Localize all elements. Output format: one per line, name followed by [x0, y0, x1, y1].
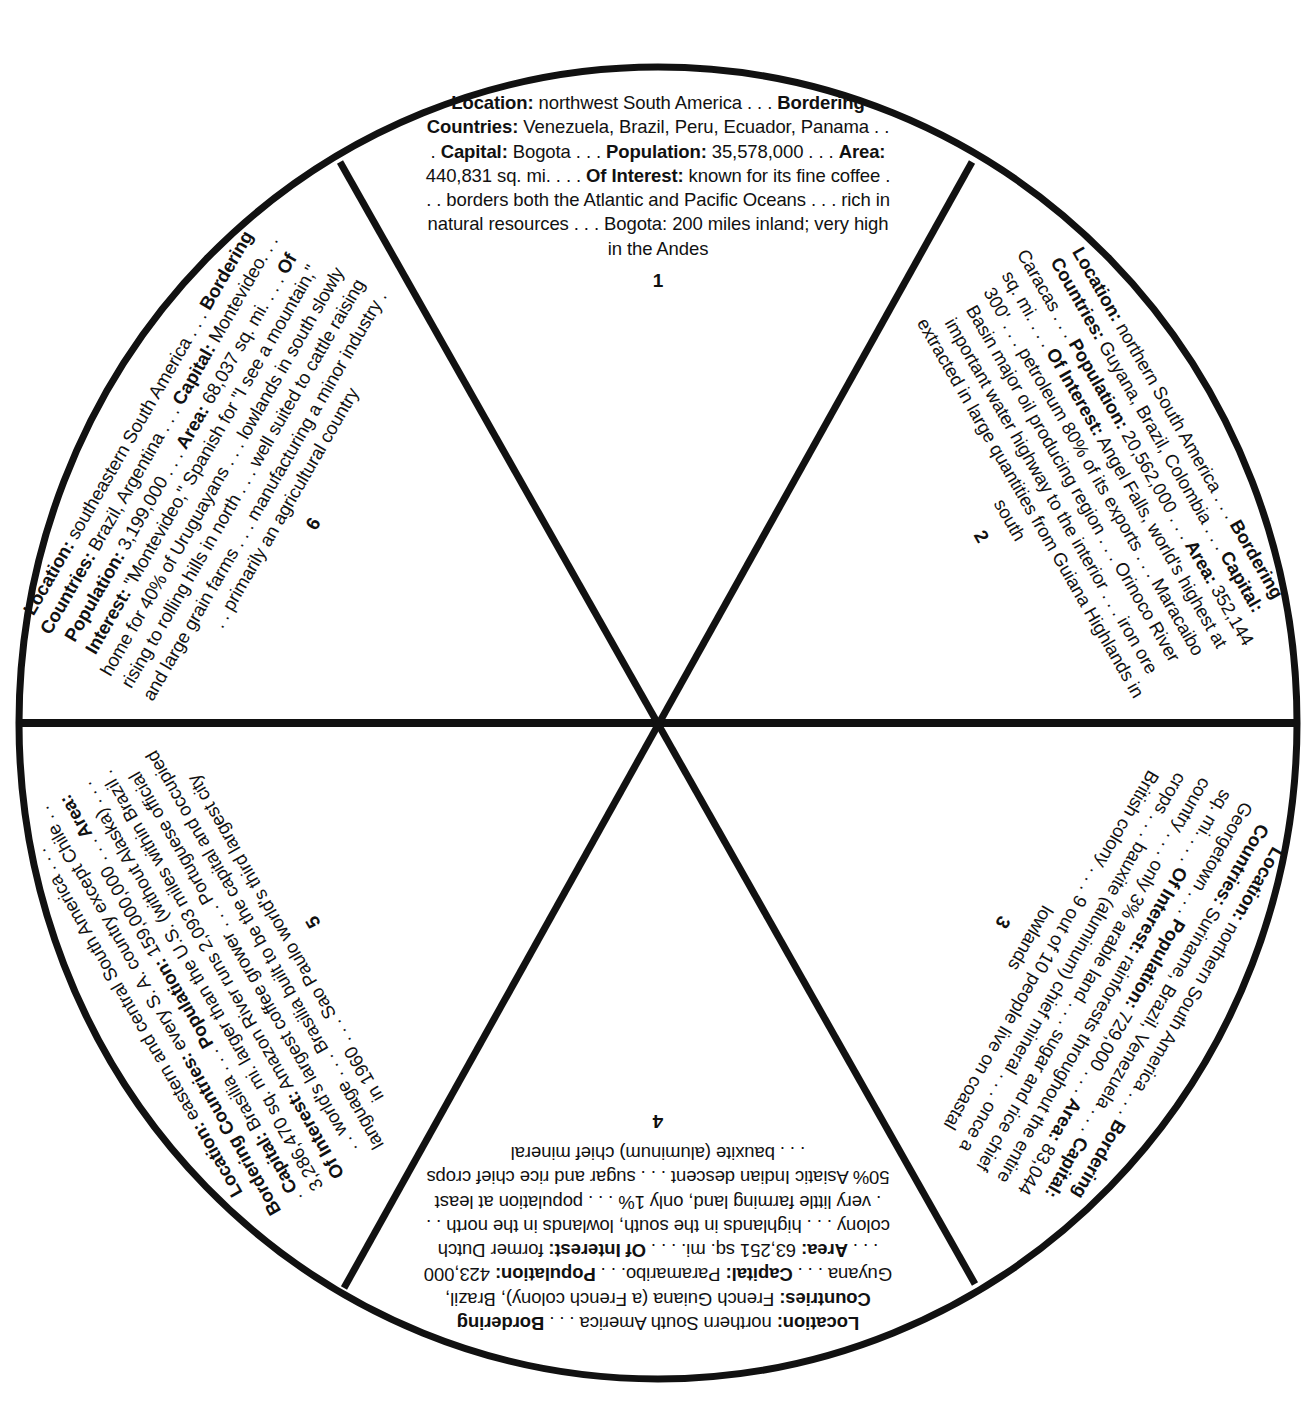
wedge-text-block: Location: northern South America . . . B… — [423, 1108, 893, 1335]
field-value: 63,251 sq. mi. . . . — [646, 1240, 801, 1261]
field-label: Capital: — [441, 141, 508, 162]
field-value: northern South America . . . — [544, 1313, 776, 1334]
field-label: Capital: — [726, 1264, 793, 1285]
country-facts: Location: northern South America . . . B… — [423, 1141, 893, 1335]
country-facts: Location: northwest South America . . . … — [423, 91, 893, 261]
field-label: Area: — [801, 1240, 848, 1261]
field-value: Bogota . . . — [508, 141, 606, 162]
field-value: 35,578,000 . . . — [707, 141, 839, 162]
field-label: Area: — [839, 141, 886, 162]
field-label: Population: — [606, 141, 707, 162]
field-value: 440,831 sq. mi. . . . — [426, 165, 586, 186]
wedge-number: 4 — [423, 1108, 893, 1132]
field-value: Paramaribo. . . — [596, 1264, 726, 1285]
field-label: Of Interest: — [586, 165, 683, 186]
field-label: Of Interest: — [549, 1240, 646, 1261]
field-label: Population: — [495, 1264, 596, 1285]
field-label: Location: — [777, 1313, 859, 1334]
field-value: northwest South America . . . — [534, 92, 778, 113]
wedge-text-block: Location: northwest South America . . . … — [423, 91, 893, 293]
field-label: Location: — [451, 92, 533, 113]
wedge-number: 1 — [423, 269, 893, 293]
